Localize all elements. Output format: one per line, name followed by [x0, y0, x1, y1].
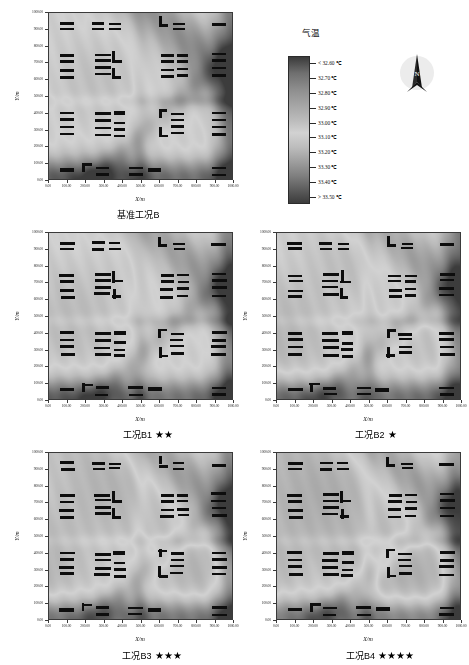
y-tick-label: 1000.00 [18, 230, 43, 234]
x-tick [313, 620, 314, 623]
x-tick-label: 600.00 [154, 404, 163, 408]
x-tick [350, 620, 351, 623]
x-tick-label: 500.00 [136, 404, 145, 408]
y-tick [273, 469, 276, 470]
y-tick [45, 62, 48, 63]
colorbar-tick [310, 197, 316, 198]
building-footprint [159, 575, 168, 578]
building-footprint [402, 243, 413, 245]
building-footprint [440, 393, 454, 395]
x-tick-label: 200.00 [80, 624, 89, 628]
building-footprint [170, 565, 183, 567]
building-footprint [159, 456, 162, 464]
x-tick-label: 700.00 [173, 184, 182, 188]
x-tick [233, 180, 234, 183]
x-tick-label: 0.00 [273, 404, 279, 408]
building-footprint [212, 126, 226, 129]
building-footprint [289, 573, 303, 576]
building-footprint [212, 606, 226, 608]
y-tick [45, 266, 48, 267]
building-footprint [288, 295, 302, 298]
building-footprint [323, 493, 339, 496]
building-footprint [161, 500, 174, 503]
y-tick [45, 366, 48, 367]
y-tick-label: 1000.00 [246, 230, 271, 234]
x-tick-label: 800.00 [191, 624, 200, 628]
building-footprint [129, 173, 143, 175]
building-footprint [322, 339, 338, 342]
building-footprint [323, 607, 336, 609]
x-tick-label: 800.00 [191, 404, 200, 408]
y-tick-label: 200.00 [18, 364, 43, 368]
x-tick [159, 400, 160, 403]
caption-text: 工况B2 [355, 428, 384, 441]
building-footprint [387, 549, 395, 552]
building-footprint [288, 559, 302, 562]
building-footprint [94, 573, 110, 576]
building-footprint [322, 513, 338, 516]
y-tick-label: 700.00 [18, 60, 43, 64]
y-tick-label: 300.00 [18, 348, 43, 352]
building-footprint [173, 462, 184, 464]
building-footprint [440, 515, 454, 518]
building-footprint [405, 280, 416, 283]
building-footprint [114, 568, 125, 571]
building-footprint [387, 236, 390, 244]
y-tick [273, 620, 276, 621]
heat-canvas [49, 13, 232, 179]
x-tick-label: 0.00 [273, 624, 279, 628]
y-tick [45, 146, 48, 147]
building-footprint [60, 248, 74, 251]
building-footprint [212, 514, 226, 517]
building-footprint [114, 562, 125, 565]
building-footprint [96, 606, 109, 608]
y-tick-label: 0.00 [246, 398, 271, 402]
y-tick [45, 113, 48, 114]
y-tick-label: 100.00 [18, 601, 43, 605]
building-footprint [92, 241, 104, 244]
y-tick [45, 29, 48, 30]
building-footprint [171, 552, 184, 554]
y-tick-label: 1000.00 [246, 450, 271, 454]
building-footprint [59, 566, 73, 569]
y-tick [45, 603, 48, 604]
x-tick-label: 100.00 [290, 404, 299, 408]
y-tick [273, 570, 276, 571]
building-footprint [95, 279, 111, 282]
building-footprint [114, 111, 125, 115]
building-footprint [288, 468, 302, 471]
x-tick-label: 700.00 [173, 404, 182, 408]
y-tick-label: 0.00 [18, 178, 43, 182]
building-footprint [212, 295, 226, 298]
y-tick-label: 200.00 [246, 584, 271, 588]
building-footprint [406, 501, 417, 504]
building-footprint [211, 492, 225, 495]
y-tick-label: 400.00 [18, 111, 43, 115]
y-tick [45, 452, 48, 453]
x-tick [215, 400, 216, 403]
building-footprint [95, 59, 111, 62]
building-footprint [173, 28, 184, 30]
heat-canvas [277, 233, 460, 399]
y-tick-label: 500.00 [246, 314, 271, 318]
building-footprint [109, 248, 120, 250]
y-tick-label: 700.00 [18, 500, 43, 504]
building-footprint [212, 387, 226, 389]
building-footprint [340, 515, 349, 518]
building-footprint [212, 558, 226, 561]
building-footprint [177, 274, 188, 277]
building-footprint [212, 507, 226, 510]
building-footprint [375, 388, 388, 392]
y-tick [273, 299, 276, 300]
building-footprint [340, 281, 350, 284]
building-footprint [173, 468, 184, 470]
y-tick-label: 800.00 [18, 44, 43, 48]
building-footprint [161, 69, 174, 72]
building-footprint [159, 109, 167, 112]
x-tick-label: 900.00 [210, 184, 219, 188]
building-footprint [342, 331, 353, 335]
y-tick [45, 130, 48, 131]
x-tick-label: 200.00 [80, 404, 89, 408]
building-footprint [60, 60, 74, 63]
building-footprint [405, 507, 416, 510]
